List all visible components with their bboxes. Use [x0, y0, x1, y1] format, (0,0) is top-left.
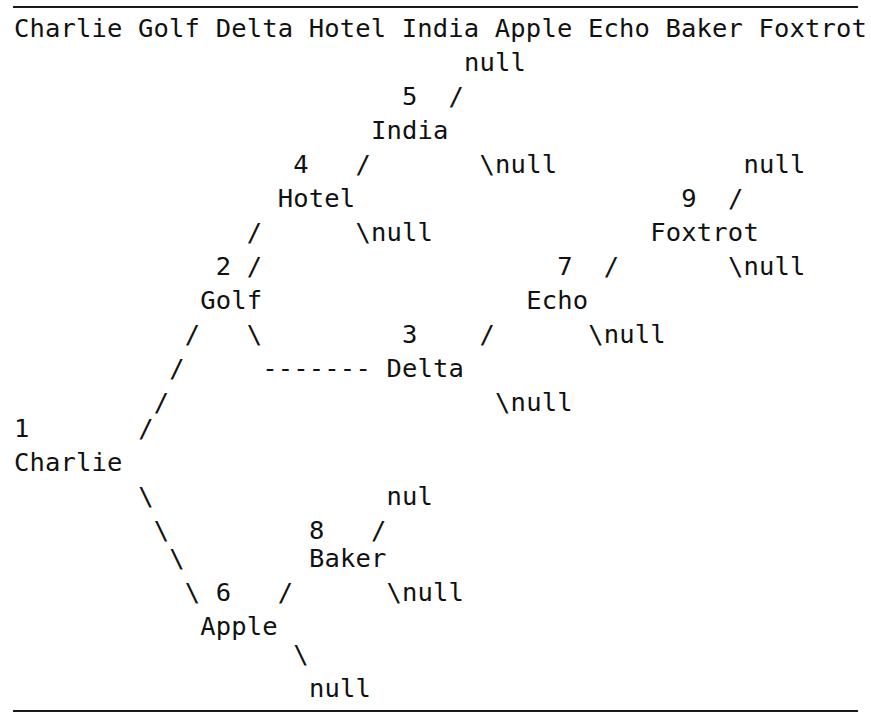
tree-node-key: 9	[681, 181, 697, 215]
document-page: Charlie Golf Delta Hotel India Apple Ech…	[0, 0, 871, 727]
null-leaf-label-left-branch: \null	[588, 317, 666, 351]
branch-left-glyph: \	[247, 317, 263, 351]
tree-node-key: 7	[557, 249, 573, 283]
ascii-line: \Baker	[0, 541, 871, 575]
branch-right-glyph: /	[728, 181, 744, 215]
branch-right-glyph: /	[138, 411, 154, 445]
ascii-line: \	[0, 637, 871, 671]
horizontal-rule-top	[13, 6, 858, 8]
branch-left-glyph: \	[138, 479, 154, 513]
ascii-line: 2/7/\null	[0, 249, 871, 283]
ascii-line: Hotel9/	[0, 181, 871, 215]
branch-right-glyph: /	[169, 351, 185, 385]
null-leaf-label: null	[309, 671, 371, 705]
null-leaf-label-left-branch: \null	[728, 249, 806, 283]
tree-node-key: 2	[216, 249, 232, 283]
tree-node-name: Hotel	[278, 181, 356, 215]
tree-node-name: Charlie	[14, 445, 123, 479]
branch-right-glyph: /	[278, 575, 294, 609]
ascii-line: Charlie Golf Delta Hotel India Apple Ech…	[0, 11, 871, 45]
tree-node-key: 5	[402, 79, 418, 113]
branch-horizontal-glyph: ------- Delta	[262, 351, 464, 385]
ascii-line: \6/\null	[0, 575, 871, 609]
null-leaf-label-left-branch: \null	[480, 147, 558, 181]
branch-right-glyph: /	[449, 79, 465, 113]
ascii-line: null	[0, 671, 871, 705]
tree-node-key: 4	[293, 147, 309, 181]
ascii-line: /------- Delta	[0, 351, 871, 385]
ascii-line: Charlie	[0, 445, 871, 479]
horizontal-rule-bottom	[13, 710, 858, 712]
ascii-line: 5/	[0, 79, 871, 113]
ascii-line: \nul	[0, 479, 871, 513]
tree-node-key: 1	[14, 411, 30, 445]
ascii-line: /\nullFoxtrot	[0, 215, 871, 249]
branch-left-glyph: \	[293, 637, 309, 671]
ascii-line: /\3/\null	[0, 317, 871, 351]
null-leaf-label-left-branch: \null	[386, 575, 464, 609]
ascii-line: 1/	[0, 411, 871, 445]
ascii-line: null	[0, 45, 871, 79]
tree-node-key: 6	[216, 575, 232, 609]
null-leaf-label: null	[743, 147, 805, 181]
tree-node-name: Foxtrot	[650, 215, 759, 249]
branch-right-glyph: /	[604, 249, 620, 283]
branch-right-glyph: /	[480, 317, 496, 351]
tree-node-name: India	[371, 113, 449, 147]
branch-left-glyph: \	[169, 541, 185, 575]
branch-right-glyph: /	[185, 317, 201, 351]
null-leaf-label: null	[464, 45, 526, 79]
tree-node-name: Echo	[526, 283, 588, 317]
ascii-line: India	[0, 113, 871, 147]
ascii-line: GolfEcho	[0, 283, 871, 317]
ascii-run: Charlie Golf Delta Hotel India Apple Ech…	[14, 11, 867, 45]
branch-right-glyph: /	[247, 249, 263, 283]
tree-node-name: Golf	[200, 283, 262, 317]
branch-right-glyph: /	[247, 215, 263, 249]
tree-node-key: 3	[402, 317, 418, 351]
branch-left-glyph: \	[185, 575, 201, 609]
null-leaf-label: nul	[386, 479, 433, 513]
tree-node-name: Baker	[309, 541, 387, 575]
null-leaf-label-left-branch: \null	[355, 215, 433, 249]
ascii-line: 4/\nullnull	[0, 147, 871, 181]
branch-right-glyph: /	[355, 147, 371, 181]
